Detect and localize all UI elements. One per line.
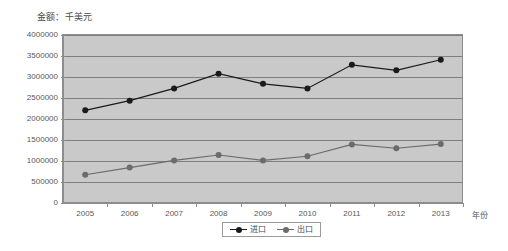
y-axis-tick xyxy=(61,140,65,141)
x-axis-tick xyxy=(196,203,197,207)
x-axis-tick-label: 2013 xyxy=(421,209,461,218)
y-axis-tick xyxy=(61,182,65,183)
x-axis-tick-label: 2011 xyxy=(332,209,372,218)
plot-area xyxy=(63,34,463,203)
line-chart: 金额：千美元 050000010000001500000200000025000… xyxy=(0,0,508,251)
x-axis-tick xyxy=(107,203,108,207)
x-axis-tick xyxy=(419,203,420,207)
x-axis-tick-label: 2009 xyxy=(243,209,283,218)
gridline xyxy=(64,119,462,120)
gridline xyxy=(64,56,462,57)
legend-marker-icon xyxy=(230,225,247,234)
y-axis-tick xyxy=(61,98,65,99)
y-axis-tick-label: 4000000 xyxy=(27,31,58,39)
x-axis-tick-label: 2005 xyxy=(65,209,105,218)
gridline xyxy=(64,161,462,162)
y-axis-tick-label: 2500000 xyxy=(27,94,58,102)
y-axis-tick xyxy=(61,35,65,36)
x-axis-tick-label: 2010 xyxy=(287,209,327,218)
chart-legend: 进口出口 xyxy=(222,222,321,237)
x-axis-tick xyxy=(285,203,286,207)
x-axis-tick-label: 2008 xyxy=(199,209,239,218)
y-axis-tick-label: 0 xyxy=(54,199,58,207)
y-axis-tick xyxy=(61,203,65,204)
x-axis-title: 年份 xyxy=(472,209,488,220)
gridline xyxy=(64,182,462,183)
x-axis-line xyxy=(62,203,464,204)
legend-item-export[interactable]: 出口 xyxy=(277,225,313,234)
y-axis-tick xyxy=(61,161,65,162)
y-axis-tick-label: 2000000 xyxy=(27,115,58,123)
x-axis-tick-label: 2012 xyxy=(376,209,416,218)
gridline xyxy=(64,98,462,99)
y-axis-tick-label: 1500000 xyxy=(27,136,58,144)
gridline xyxy=(64,140,462,141)
y-axis-tick-label: 3500000 xyxy=(27,52,58,60)
y-axis-tick-label: 3000000 xyxy=(27,73,58,81)
legend-label: 出口 xyxy=(297,225,313,234)
x-axis-tick xyxy=(241,203,242,207)
x-axis-tick-label: 2007 xyxy=(154,209,194,218)
x-axis-tick xyxy=(152,203,153,207)
y-axis-tick xyxy=(61,119,65,120)
y-axis-tick xyxy=(61,77,65,78)
legend-label: 进口 xyxy=(250,225,266,234)
x-axis-tick xyxy=(463,203,464,207)
gridline xyxy=(64,35,462,36)
legend-item-import[interactable]: 进口 xyxy=(230,225,266,234)
x-axis-tick xyxy=(374,203,375,207)
y-axis-labels: 0500000100000015000002000000250000030000… xyxy=(0,0,58,251)
y-axis-tick-label: 1000000 xyxy=(27,157,58,165)
x-axis-tick-label: 2006 xyxy=(110,209,150,218)
gridline xyxy=(64,77,462,78)
x-axis-tick xyxy=(330,203,331,207)
y-axis-tick-label: 500000 xyxy=(31,178,58,186)
legend-marker-icon xyxy=(277,225,294,234)
y-axis-tick xyxy=(61,56,65,57)
